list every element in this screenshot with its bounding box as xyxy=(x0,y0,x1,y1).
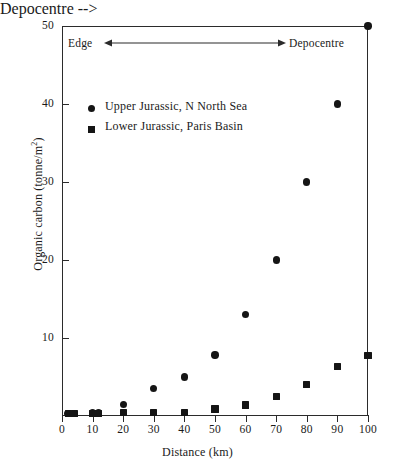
data-point-series2 xyxy=(211,405,218,412)
x-tick-50 xyxy=(215,415,216,422)
depocentre-label: Depocentre xyxy=(289,37,344,49)
data-point-series2 xyxy=(303,381,310,388)
x-tick-100 xyxy=(368,415,369,422)
y-tick-50 xyxy=(62,26,69,27)
data-point-series1 xyxy=(334,100,341,107)
legend-square-marker-icon xyxy=(88,126,95,133)
data-point-series2 xyxy=(334,363,341,370)
x-tick-20 xyxy=(123,415,124,422)
y-tick-40 xyxy=(62,104,69,105)
data-point-series1 xyxy=(120,401,127,408)
data-point-series2 xyxy=(71,410,78,417)
x-tick-label-100: 100 xyxy=(348,424,388,436)
x-tick-0 xyxy=(62,415,63,422)
x-tick-90 xyxy=(337,415,338,422)
chart-figure: 50 40 30 20 10 0 10 20 30 40 50 60 70 80… xyxy=(0,0,395,473)
legend-item-lower-jurassic: Lower Jurassic, Paris Basin xyxy=(88,119,318,139)
y-axis-title-suffix: ) xyxy=(31,137,45,141)
data-point-series2 xyxy=(364,352,371,359)
direction-annotation: Edge Depocentre xyxy=(62,36,368,54)
x-tick-70 xyxy=(276,415,277,422)
data-point-series1 xyxy=(364,22,371,29)
x-tick-80 xyxy=(307,415,308,422)
data-point-series1 xyxy=(273,256,280,263)
x-tick-30 xyxy=(154,415,155,422)
x-tick-40 xyxy=(184,415,185,422)
x-axis-title: Distance (km) xyxy=(0,445,395,460)
y-tick-10 xyxy=(62,338,69,339)
y-axis-title: Organic carbon (tonne/m2) xyxy=(30,74,46,334)
legend-circle-marker-icon xyxy=(88,105,95,112)
y-tick-label-50: 50 xyxy=(14,20,54,32)
legend-item-upper-jurassic: Upper Jurassic, N North Sea xyxy=(88,99,318,119)
y-axis-title-main: Organic carbon (tonne/m xyxy=(31,146,45,271)
x-tick-60 xyxy=(246,415,247,422)
data-point-series1 xyxy=(181,373,188,380)
edge-label: Edge xyxy=(68,37,92,49)
data-point-series2 xyxy=(120,409,127,416)
data-point-series1 xyxy=(211,351,218,358)
legend-label-lower-jurassic: Lower Jurassic, Paris Basin xyxy=(105,119,243,134)
y-tick-30 xyxy=(62,182,69,183)
data-point-series2 xyxy=(181,409,188,416)
legend-label-upper-jurassic: Upper Jurassic, N North Sea xyxy=(105,99,247,114)
data-point-series2 xyxy=(95,410,102,417)
y-tick-20 xyxy=(62,260,69,261)
y-axis-title-exponent: 2 xyxy=(30,142,39,146)
data-point-series2 xyxy=(242,401,249,408)
data-point-series2 xyxy=(273,393,280,400)
data-point-series2 xyxy=(150,409,157,416)
chart-legend: Upper Jurassic, N North Sea Lower Jurass… xyxy=(88,99,318,139)
double-headed-arrow-icon xyxy=(104,36,286,50)
